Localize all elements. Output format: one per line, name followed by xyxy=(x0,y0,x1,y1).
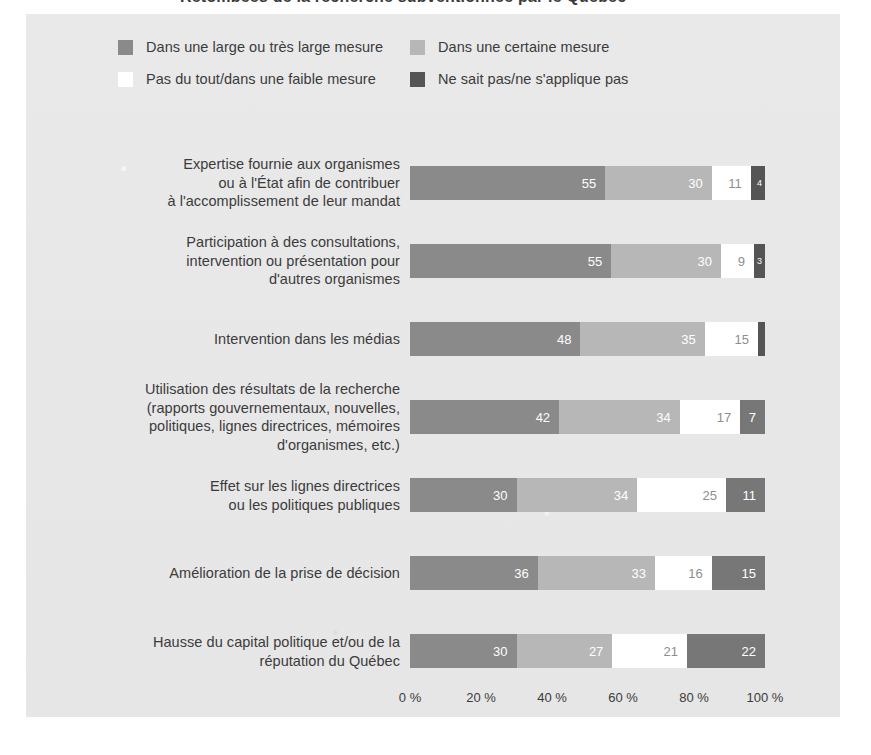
legend-label-large: Dans une large ou très large mesure xyxy=(146,39,383,55)
bar-row-label-line: politiques, lignes directrices, mémoires xyxy=(70,417,400,436)
bar-row-label-line: Expertise fournie aux organismes xyxy=(70,155,400,174)
chart-title-strip: Retombées de la recherche subventionnée … xyxy=(0,0,871,11)
legend-row: Dans une large ou très large mesureDans … xyxy=(118,31,718,63)
bar-segment[interactable]: 48 xyxy=(410,322,580,356)
bar-track: 553093 xyxy=(410,244,765,278)
bar-segment[interactable]: 30 xyxy=(410,634,517,668)
bar-segment[interactable]: 4 xyxy=(751,166,765,200)
bar-segment-value: 55 xyxy=(588,254,611,269)
bar-segment[interactable]: 34 xyxy=(517,478,638,512)
bar-row-label-line: Hausse du capital politique et/ou de la xyxy=(70,633,400,652)
x-axis-tick-label: 20 % xyxy=(466,690,496,705)
bar-segment[interactable]: 11 xyxy=(726,478,765,512)
bar-row: Expertise fournie aux organismesou à l'É… xyxy=(26,144,840,222)
x-axis-tick-label: 100 % xyxy=(747,690,784,705)
x-axis-tick-label: 80 % xyxy=(679,690,709,705)
bar-segment-value: 4 xyxy=(757,178,765,188)
bar-segment-value: 34 xyxy=(656,410,679,425)
x-axis-tick-label: 0 % xyxy=(399,690,421,705)
bar-segment-value: 9 xyxy=(738,254,754,269)
bar-segment[interactable]: 34 xyxy=(559,400,680,434)
chart-panel: Dans une large ou très large mesureDans … xyxy=(26,14,840,717)
bar-segment[interactable]: 35 xyxy=(580,322,704,356)
bar-track: 483515 xyxy=(410,322,765,356)
bar-row-label-line: à l'accomplissement de leur mandat xyxy=(70,192,400,211)
bar-segment[interactable]: 27 xyxy=(517,634,613,668)
bar-segment-value: 35 xyxy=(681,332,704,347)
bar-segment[interactable]: 17 xyxy=(680,400,740,434)
bar-segment[interactable]: 15 xyxy=(705,322,758,356)
bar-segment[interactable]: 11 xyxy=(712,166,751,200)
bar-row-label-line: (rapports gouvernementaux, nouvelles, xyxy=(70,399,400,418)
bar-segment[interactable]: 25 xyxy=(637,478,726,512)
bar-segment[interactable]: 55 xyxy=(410,244,611,278)
bar-segment-value: 11 xyxy=(742,488,765,503)
bar-segment-value: 48 xyxy=(557,332,580,347)
bar-segment-value: 30 xyxy=(698,254,721,269)
bar-segment-value: 34 xyxy=(614,488,637,503)
bar-row-label-line: ou les politiques publiques xyxy=(70,495,400,514)
legend-row: Pas du tout/dans une faible mesureNe sai… xyxy=(118,63,718,95)
chart-legend: Dans une large ou très large mesureDans … xyxy=(118,31,718,95)
bar-segment[interactable]: 42 xyxy=(410,400,559,434)
legend-swatch-nsp-icon xyxy=(410,72,425,87)
bar-segment-value: 17 xyxy=(717,410,740,425)
legend-item-large[interactable]: Dans une large ou très large mesure xyxy=(118,39,410,55)
legend-swatch-certaine-icon xyxy=(410,40,425,55)
bar-row-label: Effet sur les lignes directricesou les p… xyxy=(70,477,400,514)
bar-segment-value: 21 xyxy=(663,644,686,659)
legend-item-certaine[interactable]: Dans une certaine mesure xyxy=(410,39,609,55)
bar-segment[interactable]: 36 xyxy=(410,556,538,590)
bar-segment-value: 11 xyxy=(728,176,751,191)
bar-row: Amélioration de la prise de décision3633… xyxy=(26,534,840,612)
bar-segment-value: 22 xyxy=(742,644,765,659)
bar-segment[interactable]: 7 xyxy=(740,400,765,434)
bar-row-label: Amélioration de la prise de décision xyxy=(70,564,400,583)
bar-segment-value: 27 xyxy=(589,644,612,659)
bar-segment[interactable]: 30 xyxy=(611,244,721,278)
bar-segment[interactable]: 33 xyxy=(538,556,655,590)
bar-segment[interactable]: 30 xyxy=(410,478,517,512)
bar-row: Effet sur les lignes directricesou les p… xyxy=(26,456,840,534)
bar-segment-value: 15 xyxy=(734,332,757,347)
bar-segment-value: 42 xyxy=(536,410,559,425)
bar-segment[interactable]: 9 xyxy=(721,244,754,278)
chart-title: Retombées de la recherche subventionnée … xyxy=(180,0,626,6)
legend-item-faible[interactable]: Pas du tout/dans une faible mesure xyxy=(118,71,410,87)
bar-segment[interactable] xyxy=(758,322,765,356)
bar-segment-value: 7 xyxy=(749,410,765,425)
x-axis-tick-label: 60 % xyxy=(608,690,638,705)
bar-row-label-line: Intervention dans les médias xyxy=(70,330,400,349)
bar-track: 5530114 xyxy=(410,166,765,200)
bar-track: 30272122 xyxy=(410,634,765,668)
bar-segment[interactable]: 30 xyxy=(605,166,712,200)
bar-segment-value: 30 xyxy=(493,644,516,659)
x-axis: 0 %20 %40 %60 %80 %100 % xyxy=(410,690,765,710)
bar-segment-value: 30 xyxy=(493,488,516,503)
bar-segment[interactable]: 3 xyxy=(754,244,765,278)
bar-row-label-line: d'autres organismes xyxy=(70,270,400,289)
bar-segment-value: 25 xyxy=(702,488,725,503)
bar-segment[interactable]: 55 xyxy=(410,166,605,200)
bar-segment-value: 16 xyxy=(688,566,711,581)
bar-row-label-line: Effet sur les lignes directrices xyxy=(70,477,400,496)
bar-segment[interactable]: 22 xyxy=(687,634,765,668)
x-axis-tick-label: 40 % xyxy=(537,690,567,705)
legend-swatch-large-icon xyxy=(118,40,133,55)
bar-segment[interactable]: 21 xyxy=(612,634,687,668)
bar-row-label-line: ou à l'État afin de contribuer xyxy=(70,174,400,193)
bar-track: 30342511 xyxy=(410,478,765,512)
bar-row-label-line: réputation du Québec xyxy=(70,651,400,670)
bar-row: Participation à des consultations,interv… xyxy=(26,222,840,300)
bar-row-label-line: Utilisation des résultats de la recherch… xyxy=(70,380,400,399)
bar-row-label-line: Amélioration de la prise de décision xyxy=(70,564,400,583)
legend-item-nsp[interactable]: Ne sait pas/ne s'applique pas xyxy=(410,71,628,87)
bar-segment-value: 33 xyxy=(631,566,654,581)
bar-segment[interactable]: 15 xyxy=(712,556,765,590)
bar-row-label: Utilisation des résultats de la recherch… xyxy=(70,380,400,454)
bar-row-label-line: d'organismes, etc.) xyxy=(70,436,400,455)
bar-segment-value: 36 xyxy=(514,566,537,581)
plot-area: Expertise fournie aux organismesou à l'É… xyxy=(26,144,840,690)
legend-swatch-faible-icon xyxy=(118,72,133,87)
bar-segment[interactable]: 16 xyxy=(655,556,712,590)
